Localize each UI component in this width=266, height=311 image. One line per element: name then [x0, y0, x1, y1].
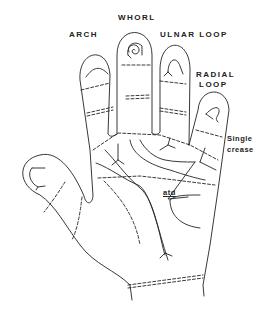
ulnar-loop-pattern — [164, 60, 183, 76]
flexion-creases — [44, 65, 222, 288]
palm-ridges — [96, 138, 216, 260]
label-arch: ARCH — [69, 30, 98, 40]
label-ulnar-loop: ULNAR LOOP — [160, 30, 228, 40]
arch-pattern — [86, 68, 108, 77]
label-radial-loop-line2: LOOP — [199, 80, 228, 90]
label-atd: atd — [163, 188, 176, 198]
label-whorl: WHORL — [118, 13, 156, 23]
thumb-loop-pattern — [30, 168, 45, 190]
label-radial-loop-line1: RADIAL — [196, 70, 235, 80]
hand-diagram — [0, 0, 266, 311]
whorl-pattern — [128, 43, 142, 58]
label-single-crease-line1: Single — [227, 134, 253, 144]
label-single-crease-line2: crease — [227, 145, 254, 155]
radial-loop-pattern — [206, 108, 219, 122]
